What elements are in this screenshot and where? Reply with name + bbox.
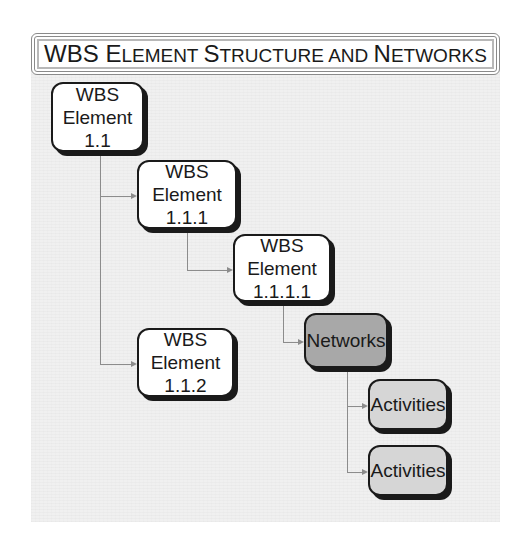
node-label-line: Element: [151, 351, 221, 374]
connector-networks-trunk: [347, 372, 348, 472]
title-part: N: [374, 40, 391, 67]
node-label-line: WBS: [165, 160, 208, 183]
title-banner: WBS ELEMENT STRUCTURE AND NETWORKS: [31, 33, 500, 75]
node-label-line: 1.1.1: [166, 206, 208, 229]
title-part: WBS: [44, 40, 105, 67]
connector-1-1-1-to-1-1-1-1: [187, 270, 229, 271]
diagram-title: WBS ELEMENT STRUCTURE AND NETWORKS: [44, 40, 487, 68]
node-label-line: 1.1.1.1: [253, 280, 311, 303]
node-label-line: WBS: [76, 83, 119, 106]
title-part: ETWORKS: [391, 45, 487, 66]
title-part: TRUCTURE AND: [219, 45, 373, 66]
node-label-line: Element: [152, 183, 222, 206]
title-part: E: [105, 40, 121, 67]
title-part: LEMENT: [121, 45, 203, 66]
title-part: S: [203, 40, 219, 67]
node-wbs-element-1-1[interactable]: WBS Element 1.1: [51, 82, 144, 152]
node-networks[interactable]: Networks: [304, 313, 388, 368]
node-wbs-element-1-1-2[interactable]: WBS Element 1.1.2: [137, 328, 234, 397]
connector-1-1-trunk: [100, 156, 101, 364]
node-label-line: 1.1.2: [164, 374, 206, 397]
node-wbs-element-1-1-1[interactable]: WBS Element 1.1.1: [137, 160, 237, 229]
node-label-line: Element: [247, 257, 317, 280]
node-label-line: 1.1: [84, 129, 110, 152]
connector-1-1-1-trunk: [187, 233, 188, 270]
node-label-line: WBS: [164, 328, 207, 351]
node-label-line: Networks: [306, 329, 385, 352]
node-wbs-element-1-1-1-1[interactable]: WBS Element 1.1.1.1: [233, 234, 331, 302]
node-label-line: Activities: [371, 393, 446, 416]
connector-1-1-1-1-trunk: [283, 306, 284, 342]
node-activities-1[interactable]: Activities: [368, 379, 448, 430]
connector-1-1-to-1-1-2: [100, 364, 133, 365]
node-label-line: Activities: [371, 459, 446, 482]
node-label-line: Element: [63, 106, 133, 129]
node-activities-2[interactable]: Activities: [368, 445, 448, 496]
node-label-line: WBS: [260, 234, 303, 257]
connector-1-1-to-1-1-1: [100, 196, 133, 197]
